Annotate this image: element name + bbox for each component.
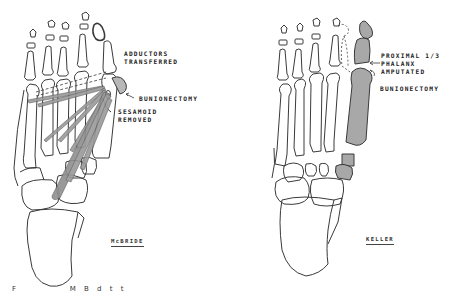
proximal-phalanx-amputated-label: PROXIMAL 1/3 PHALANX AMPUTATED bbox=[381, 52, 440, 76]
figure-caption: F M B d t t bbox=[12, 285, 126, 293]
adductors-transferred-label: ADDUCTORS TRANSFERRED bbox=[124, 50, 178, 66]
keller-bunionectomy-label: BUNIONECTOMY bbox=[380, 85, 439, 93]
keller-title: KELLER bbox=[366, 236, 394, 245]
sesamoid-removed-label: SESAMOID REMOVED bbox=[118, 108, 157, 124]
keller-foot-diagram bbox=[0, 0, 451, 294]
bunion-surgery-figure: ADDUCTORS TRANSFERRED BUNIONECTOMY SESAM… bbox=[0, 0, 451, 294]
mcbride-bunionectomy-label: BUNIONECTOMY bbox=[139, 95, 198, 103]
mcbride-title: McBRIDE bbox=[111, 238, 144, 247]
